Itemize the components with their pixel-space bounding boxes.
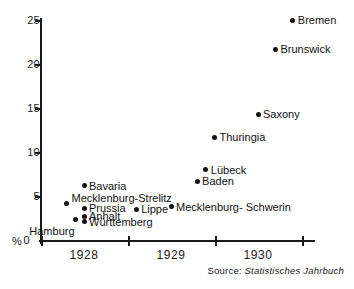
data-point[interactable]	[290, 18, 295, 23]
data-point[interactable]	[82, 219, 87, 224]
data-point[interactable]	[134, 207, 139, 212]
data-point[interactable]	[82, 206, 87, 211]
y-tick-label: 20	[14, 59, 40, 70]
y-tick-label: 25	[14, 15, 40, 26]
data-point-label: Lippe	[141, 204, 168, 215]
data-point[interactable]	[212, 135, 217, 140]
data-point-label: Bavaria	[89, 181, 126, 192]
data-point-label: Hamburg	[29, 226, 74, 237]
data-point[interactable]	[169, 204, 174, 209]
y-tick-label: 15	[14, 103, 40, 114]
data-point-label: Thuringia	[220, 132, 266, 143]
data-point-label: Württemberg	[89, 217, 153, 228]
data-point[interactable]	[73, 217, 78, 222]
data-point[interactable]	[195, 179, 200, 184]
data-point-label: Mecklenburg- Schwerin	[176, 202, 291, 213]
data-point-label: Lübeck	[211, 165, 246, 176]
x-tick-mark	[41, 236, 43, 246]
x-tick-mark	[128, 236, 130, 246]
data-point[interactable]	[82, 183, 87, 188]
scatter-chart: % 0510152025 192819291930 BremenBrunswic…	[0, 0, 354, 289]
x-axis-line	[39, 240, 315, 242]
data-point-label: Baden	[202, 176, 234, 187]
x-tick-label: 1928	[54, 249, 114, 261]
x-tick-label: 1930	[228, 249, 288, 261]
data-point[interactable]	[64, 201, 69, 206]
data-point[interactable]	[256, 112, 261, 117]
y-tick-label: 5	[14, 191, 40, 202]
data-point[interactable]	[82, 214, 87, 219]
y-tick-label: 0	[4, 235, 30, 246]
data-point[interactable]	[203, 167, 208, 172]
y-tick-label: 10	[14, 147, 40, 158]
data-point-label: Bremen	[298, 15, 337, 26]
y-axis-line	[40, 18, 42, 244]
data-point-label: Saxony	[263, 109, 300, 120]
source-prefix: Source:	[208, 265, 242, 276]
data-point[interactable]	[273, 47, 278, 52]
data-point-label: Brunswick	[280, 44, 330, 55]
x-tick-label: 1929	[141, 249, 201, 261]
source-note: Source: Statistisches Jahrbuch	[208, 266, 344, 276]
source-title: Statistisches Jahrbuch	[245, 265, 344, 276]
x-tick-mark	[302, 236, 304, 246]
x-tick-mark	[215, 236, 217, 246]
